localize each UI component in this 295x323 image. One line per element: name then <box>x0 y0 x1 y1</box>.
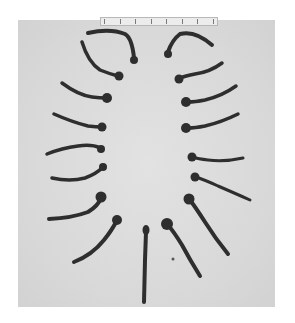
nail <box>181 114 238 133</box>
nail <box>88 31 138 64</box>
nail <box>62 83 112 103</box>
nail <box>47 145 105 154</box>
nail <box>188 153 244 162</box>
nail <box>175 63 223 84</box>
nail <box>143 225 150 302</box>
nail <box>49 192 107 220</box>
nail <box>82 42 124 81</box>
speck <box>172 258 175 261</box>
nail <box>161 218 200 276</box>
nail <box>184 194 229 255</box>
nail <box>52 163 107 180</box>
nail <box>164 33 212 58</box>
nail <box>181 86 236 107</box>
nail <box>54 114 107 132</box>
nail <box>74 215 122 262</box>
nail <box>191 173 251 201</box>
nails-illustration <box>0 0 295 323</box>
